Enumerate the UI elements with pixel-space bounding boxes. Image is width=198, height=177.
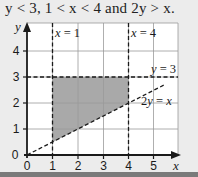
y-tick-0: 0: [12, 148, 19, 162]
x-tick-2: 2: [75, 159, 82, 173]
x-axis-label: x: [172, 158, 179, 173]
y-tick-3: 3: [13, 70, 20, 84]
x-tick-4: 4: [125, 159, 132, 173]
label-x-equals-1: x = 1: [54, 26, 80, 40]
y-tick-2: 2: [13, 96, 20, 110]
y-tick-4: 4: [13, 44, 20, 58]
label-x-equals-4: x = 4: [130, 26, 157, 40]
label-y-equals-3: y = 3: [149, 62, 176, 76]
y-axis-label: y: [13, 19, 21, 34]
x-tick-3: 3: [100, 159, 107, 173]
x-tick-5: 5: [150, 159, 157, 173]
x-tick-1: 1: [49, 159, 56, 173]
x-tick-0: 0: [24, 159, 31, 173]
bottom-bar: [0, 172, 198, 177]
y-tick-1: 1: [13, 122, 20, 136]
inequality-graph: 0 1 2 3 4 5 0 1 2 3 4 y x x = 1 x = 4 y …: [0, 0, 198, 177]
label-2y-equals-x: 2y = x: [141, 94, 172, 108]
